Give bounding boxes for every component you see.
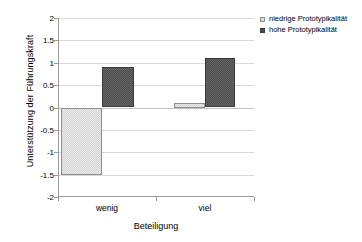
y-tick-label-1-5: 1.5 bbox=[14, 36, 54, 45]
legend-label-hohe-prototypikalitaet: hohe Prototypikalität bbox=[269, 25, 360, 35]
x-tick-label-wenig: wenig bbox=[67, 203, 147, 213]
bar-viel-hohe-prototypikalitaet bbox=[205, 58, 235, 107]
plot-area bbox=[58, 18, 254, 197]
gridline-1-5 bbox=[59, 40, 254, 41]
legend-entry-hohe-prototypikalitaet: hohe Prototypikalität bbox=[260, 25, 360, 35]
y-tick-label-0-5: 0.5 bbox=[14, 81, 54, 90]
y-tick-label-2: 2 bbox=[14, 14, 54, 23]
y-tick-label-neg-1-5: -1.5 bbox=[14, 170, 54, 179]
y-tick-label-1: 1 bbox=[14, 58, 54, 67]
x-axis-title: Beteiligung bbox=[58, 221, 254, 231]
high-prototypicality-swatch-icon bbox=[260, 28, 265, 33]
legend-label-niedrige-prototypikalitaet: niedrige Prototypikalität bbox=[269, 14, 360, 24]
gridline-neg-1-5 bbox=[59, 175, 254, 176]
y-tick-label-neg-1: -1 bbox=[14, 148, 54, 157]
legend-entry-niedrige-prototypikalitaet: niedrige Prototypikalität bbox=[260, 14, 360, 24]
chart-legend: niedrige Prototypikalität hohe Prototypi… bbox=[260, 14, 360, 36]
y-tick-label-neg-0-5: -0.5 bbox=[14, 125, 54, 134]
bar-wenig-niedrige-prototypikalitaet bbox=[61, 108, 102, 175]
bar-wenig-hohe-prototypikalitaet bbox=[102, 67, 134, 107]
x-tick-mark-left bbox=[58, 197, 59, 201]
y-tick-label-neg-2: -2 bbox=[14, 193, 54, 202]
x-tick-mark-right bbox=[254, 197, 255, 201]
bar-chart: Unterstützung der Führungskraft 2 1.5 1 … bbox=[0, 0, 362, 242]
bar-viel-niedrige-prototypikalitaet bbox=[174, 103, 205, 108]
y-tick-label-0: 0 bbox=[14, 103, 54, 112]
low-prototypicality-swatch-icon bbox=[260, 17, 265, 22]
x-tick-mark-middle bbox=[156, 197, 157, 201]
gridline-2 bbox=[59, 18, 254, 19]
x-tick-label-viel: viel bbox=[165, 203, 245, 213]
